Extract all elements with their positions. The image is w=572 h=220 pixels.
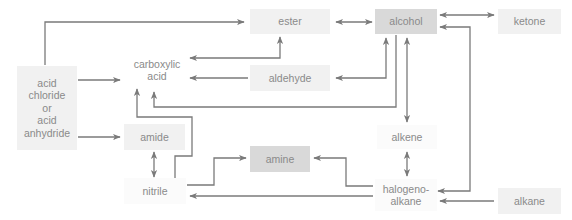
node-nitrile-label: nitrile: [142, 185, 167, 198]
node-halogenoalkane: halogeno- alkane: [375, 179, 437, 211]
node-amine: amine: [250, 146, 310, 172]
node-amide: amide: [124, 124, 185, 150]
arrow-aldehyde-alcohol: [336, 38, 386, 78]
arrow-carboxylic-ester: [190, 37, 280, 58]
node-ketone-label: ketone: [514, 15, 546, 28]
node-alkane-label: alkane: [514, 195, 545, 208]
node-alkane: alkane: [498, 188, 561, 214]
node-amide-label: amide: [140, 131, 169, 144]
node-halogenoalkane-label: halogeno- alkane: [383, 183, 430, 208]
node-nitrile: nitrile: [124, 178, 186, 204]
arrow-halogeno-alcohol: [438, 27, 470, 191]
node-alcohol-label: alcohol: [389, 15, 422, 28]
node-aldehyde: aldehyde: [250, 65, 330, 91]
arrow-halogeno-amine: [314, 158, 373, 186]
node-alcohol: alcohol: [375, 9, 437, 34]
arrow-nitrile-amine: [187, 158, 246, 185]
node-acid-chloride-label: acid chloride or acid anhydride: [24, 77, 70, 140]
node-carboxylic-acid: carboxylic acid: [125, 55, 189, 85]
node-ester-label: ester: [278, 15, 301, 28]
node-ketone: ketone: [498, 9, 561, 34]
node-acid-chloride-or-anhydride: acid chloride or acid anhydride: [17, 66, 77, 150]
node-carboxylic-acid-label: carboxylic acid: [134, 58, 181, 83]
node-aldehyde-label: aldehyde: [269, 72, 312, 85]
node-alkene: alkene: [377, 125, 437, 149]
node-amine-label: amine: [266, 153, 295, 166]
node-alkene-label: alkene: [392, 131, 423, 144]
node-ester: ester: [250, 9, 330, 34]
